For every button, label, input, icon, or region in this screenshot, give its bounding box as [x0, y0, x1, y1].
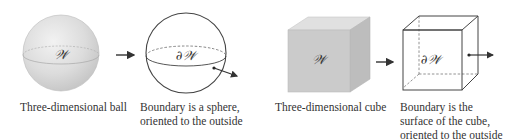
- sphere-caption: Boundary is a sphere, oriented to the ou…: [140, 100, 243, 128]
- cube-boundary-caption: Boundary is the surface of the cube, ori…: [400, 100, 503, 139]
- sphere-caption-line: oriented to the outside: [140, 114, 243, 128]
- sphere-boundary: ∂𝒲: [146, 13, 237, 93]
- cube-boundary-caption-line: oriented to the outside: [400, 128, 503, 139]
- solid-cube: 𝒲: [288, 17, 370, 92]
- sphere-symbol: ∂𝒲: [176, 48, 200, 63]
- cube-boundary-caption-line: Boundary is the: [400, 100, 503, 114]
- cube-boundary: ∂𝒲: [403, 16, 493, 90]
- cube-caption: Three-dimensional cube: [275, 100, 386, 114]
- solid-ball: 𝒲: [23, 15, 99, 91]
- cube-boundary-symbol: ∂𝒲: [421, 52, 445, 67]
- sphere-caption-line: Boundary is a sphere,: [140, 100, 243, 114]
- ball-caption: Three-dimensional ball: [20, 100, 127, 114]
- cube-boundary-caption-line: surface of the cube,: [400, 114, 503, 128]
